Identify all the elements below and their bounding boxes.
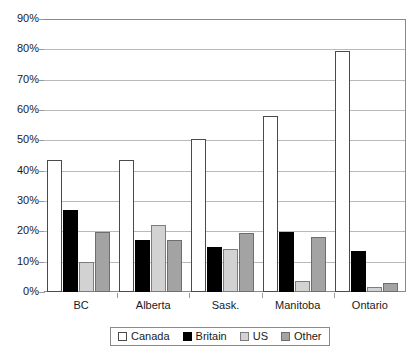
bar-groups — [45, 19, 406, 292]
legend-swatch-us-icon — [240, 332, 249, 341]
x-axis-tick-label: Manitoba — [262, 299, 334, 312]
legend-swatch-britain-icon — [183, 332, 192, 341]
y-axis-tick-mark — [39, 171, 44, 172]
bar-other — [311, 237, 326, 292]
bar-group — [334, 19, 406, 292]
legend-label: Canada — [131, 331, 170, 342]
bar-canada — [191, 139, 206, 292]
bar-chart: 0%10%20%30%40%50%60%70%80%90% BCAlbertaS… — [0, 0, 417, 354]
y-axis-tick-label: 40% — [17, 165, 39, 176]
y-axis-tick-label: 60% — [17, 104, 39, 115]
bar-britain — [279, 232, 294, 292]
y-axis-tick-mark — [39, 140, 44, 141]
legend-item: Other — [281, 331, 322, 342]
x-axis-tick-label: BC — [45, 299, 117, 312]
y-axis-tick-mark — [39, 262, 44, 263]
y-axis-tick-mark — [39, 80, 44, 81]
x-axis-tick-labels: BCAlbertaSask.ManitobaOntario — [45, 299, 406, 315]
legend-item: US — [240, 331, 268, 342]
legend-label: US — [253, 331, 268, 342]
y-axis-tick-mark — [39, 231, 44, 232]
bar-us — [151, 225, 166, 292]
y-axis-tick-label: 30% — [17, 195, 39, 206]
bar-group — [45, 19, 117, 292]
y-axis-tick-label: 10% — [17, 256, 39, 267]
x-axis-tick-label: Sask. — [189, 299, 261, 312]
bar-group — [189, 19, 261, 292]
legend-label: Britain — [196, 331, 227, 342]
legend-swatch-other-icon — [281, 332, 290, 341]
bar-group — [262, 19, 334, 292]
y-axis-tick-mark — [39, 201, 44, 202]
x-axis-tick-mark — [262, 293, 263, 298]
bar-canada — [47, 160, 62, 292]
bar-other — [239, 233, 254, 292]
bar-us — [295, 281, 310, 292]
bar-us — [223, 249, 238, 292]
bar-other — [167, 240, 182, 292]
y-axis-tick-label: 0% — [23, 286, 39, 297]
x-axis-tick-mark — [334, 293, 335, 298]
bar-britain — [207, 247, 222, 293]
y-axis-tick-labels: 0%10%20%30%40%50%60%70%80%90% — [0, 0, 44, 312]
x-axis-tick-label: Ontario — [334, 299, 406, 312]
bar-britain — [135, 240, 150, 292]
bar-canada — [335, 51, 350, 292]
bar-other — [95, 232, 110, 292]
legend-swatch-canada-icon — [118, 332, 127, 341]
x-axis-tick-label: Alberta — [117, 299, 189, 312]
bar-canada — [119, 160, 134, 292]
bar-other — [383, 283, 398, 292]
legend-label: Other — [294, 331, 322, 342]
y-axis-tick-label: 70% — [17, 74, 39, 85]
legend-item: Canada — [118, 331, 170, 342]
bar-britain — [351, 251, 366, 292]
bar-canada — [263, 116, 278, 292]
y-axis-tick-mark — [39, 19, 44, 20]
y-axis-tick-label: 50% — [17, 134, 39, 145]
x-axis-tick-mark — [189, 293, 190, 298]
y-axis-tick-label: 90% — [17, 13, 39, 24]
chart-legend: CanadaBritainUSOther — [110, 327, 330, 346]
y-axis-tick-label: 20% — [17, 225, 39, 236]
bar-us — [367, 287, 382, 292]
bar-britain — [63, 210, 78, 292]
y-axis-tick-mark — [39, 49, 44, 50]
y-axis-tick-mark — [39, 292, 44, 293]
bar-group — [117, 19, 189, 292]
y-axis-tick-mark — [39, 110, 44, 111]
x-axis-tick-mark — [117, 293, 118, 298]
y-axis-tick-label: 80% — [17, 43, 39, 54]
bar-us — [79, 262, 94, 292]
legend-item: Britain — [183, 331, 227, 342]
